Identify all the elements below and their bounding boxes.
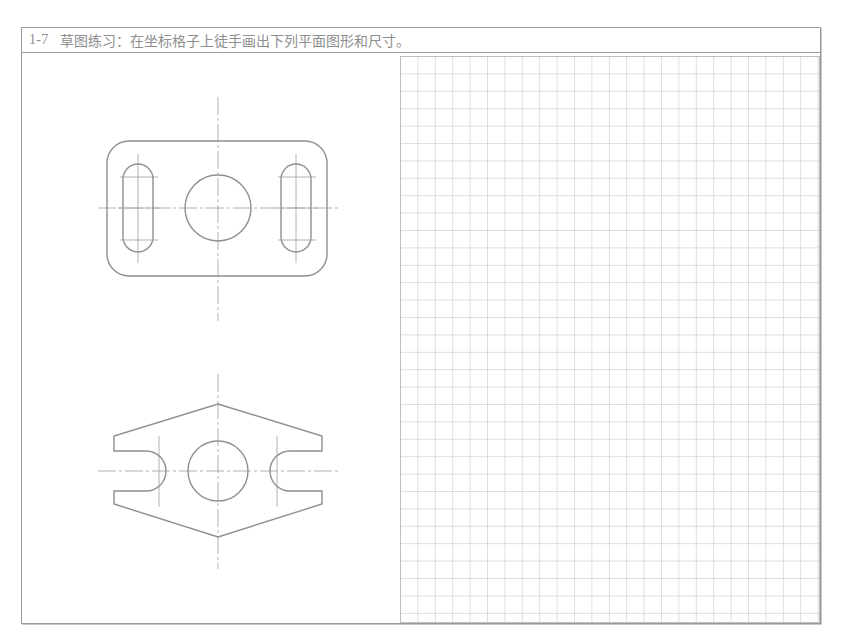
figure-1-centerlines (98, 97, 338, 321)
figure-1-group (98, 97, 338, 321)
exercise-title: 草图练习：在坐标格子上徒手画出下列平面图形和尺寸。 (49, 30, 410, 50)
page-canvas: 1-7 草图练习：在坐标格子上徒手画出下列平面图形和尺寸。 (0, 0, 843, 639)
frame-body (22, 53, 820, 623)
exercise-number: 1-7 (22, 32, 49, 48)
drawings-svg (22, 53, 400, 624)
drawing-pane (22, 53, 400, 623)
graph-paper-pane (400, 56, 820, 623)
figure-2-group (98, 374, 338, 569)
graph-paper-grid (401, 57, 820, 623)
figure-2-centerlines (98, 374, 338, 569)
plate-outline (107, 141, 327, 276)
graph-paper-svg (400, 56, 820, 623)
exercise-frame: 1-7 草图练习：在坐标格子上徒手画出下列平面图形和尺寸。 (21, 27, 821, 624)
title-bar: 1-7 草图练习：在坐标格子上徒手画出下列平面图形和尺寸。 (22, 28, 820, 53)
